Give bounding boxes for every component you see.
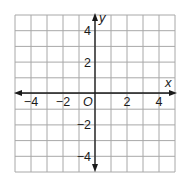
x-tick-label: 2 bbox=[124, 95, 131, 109]
y-axis-label: y bbox=[98, 10, 107, 25]
x-tick-label: −4 bbox=[24, 95, 38, 109]
x-tick-labels: −4−224 bbox=[24, 95, 163, 109]
y-tick-label: 4 bbox=[84, 24, 91, 38]
x-tick-label: −2 bbox=[56, 95, 70, 109]
axes bbox=[14, 13, 177, 172]
origin-label: O bbox=[83, 95, 93, 109]
y-axis-up-arrow-icon bbox=[92, 13, 98, 21]
y-tick-label: 2 bbox=[84, 56, 91, 70]
x-axis-right-arrow-icon bbox=[169, 90, 177, 96]
y-tick-label: −4 bbox=[77, 150, 91, 164]
coordinate-plane: y x O −4−224 42−2−4 bbox=[0, 0, 184, 183]
x-tick-label: 4 bbox=[156, 95, 163, 109]
y-tick-label: −2 bbox=[77, 118, 91, 132]
x-axis-label: x bbox=[164, 75, 172, 90]
y-axis-down-arrow-icon bbox=[92, 164, 98, 172]
